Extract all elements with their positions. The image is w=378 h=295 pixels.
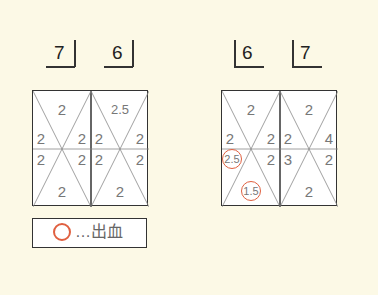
- tooth-label-ul6: 6: [112, 43, 123, 62]
- chart-grid-right: [222, 91, 338, 207]
- ul6-top: 2.5: [111, 103, 129, 116]
- legend-text: …出血: [75, 224, 123, 240]
- ur6-mid-right-upper: 2: [267, 131, 275, 146]
- ul7-top: 2: [58, 102, 66, 117]
- bleeding-marker: [241, 181, 261, 201]
- chart-grid-left: [33, 91, 149, 207]
- tooth-label-ur7: 7: [300, 43, 311, 62]
- tooth-6r-bracket-horizontal: [234, 66, 264, 68]
- bleeding-marker: [222, 149, 242, 169]
- ur6-mid-right-lower: 2: [267, 152, 275, 167]
- ul7-mid-left-upper: 2: [37, 131, 45, 146]
- ur7-mid-right-lower: 2: [325, 152, 333, 167]
- tooth-label-ul7: 7: [54, 43, 65, 62]
- tooth-7r-bracket-horizontal: [292, 66, 322, 68]
- pocket-chart-left: 2 2 2 2 2 2 2.5 2 2 2 2 2: [32, 90, 148, 206]
- tooth-6r-bracket-vertical: [234, 40, 236, 67]
- ur6-mid-left-upper: 2: [226, 131, 234, 146]
- ul7-mid-left-lower: 2: [37, 152, 45, 167]
- tooth-7r-bracket-vertical: [292, 40, 294, 67]
- legend-box: …出血: [32, 218, 147, 248]
- ur7-mid-right-upper: 4: [325, 131, 333, 146]
- ur7-bottom: 2: [305, 184, 313, 199]
- tooth-6-bracket-horizontal: [104, 66, 133, 68]
- ul6-mid-right-upper: 2: [136, 131, 144, 146]
- ur6-top: 2: [247, 102, 255, 117]
- ul7-mid-right-lower: 2: [78, 152, 86, 167]
- tooth-label-ur6: 6: [242, 43, 253, 62]
- ul6-mid-right-lower: 2: [136, 152, 144, 167]
- tooth-6-bracket-vertical: [132, 40, 134, 67]
- ur7-mid-left-lower: 3: [284, 152, 292, 167]
- ur7-mid-left-upper: 2: [284, 131, 292, 146]
- ul6-mid-left-lower: 2: [95, 152, 103, 167]
- tooth-7-bracket-vertical: [74, 40, 76, 67]
- ul6-bottom: 2: [116, 184, 124, 199]
- ur7-top: 2: [305, 102, 313, 117]
- ul7-bottom: 2: [58, 184, 66, 199]
- ul7-mid-right-upper: 2: [78, 131, 86, 146]
- tooth-7-bracket-horizontal: [46, 66, 75, 68]
- ul6-mid-left-upper: 2: [95, 131, 103, 146]
- pocket-chart-right: 2 2 2 2.5 2 1.5 2 2 4 3 2 2: [221, 90, 337, 206]
- bleeding-circle-icon: [53, 223, 71, 241]
